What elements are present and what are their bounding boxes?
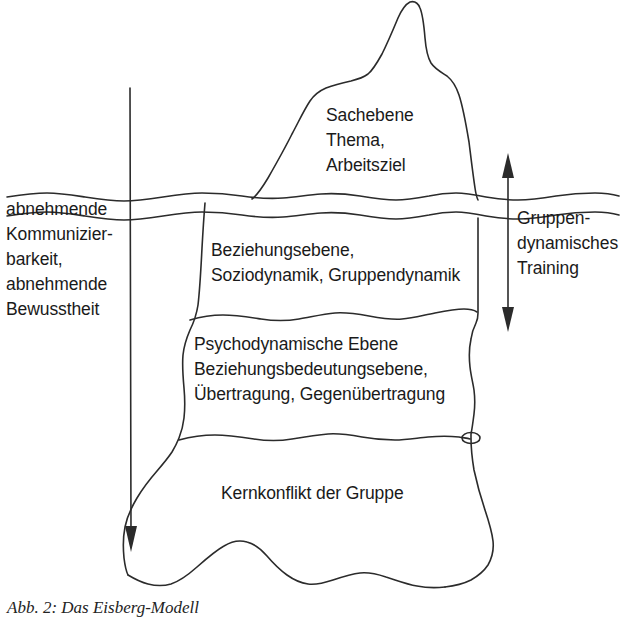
right-axis-arrowhead-down <box>502 307 514 332</box>
layer-divider-lower <box>179 434 470 441</box>
iceberg-bottom-contour <box>128 541 445 588</box>
right-axis-label: Gruppen- dynamisches Training <box>517 206 618 281</box>
right-axis-arrowhead-up <box>502 153 514 178</box>
layer-label-sachebene: Sachebene Thema, Arbeitsziel <box>326 103 414 178</box>
eisberg-modell-figure: abnehmende Kommunizier- barkeit, abnehme… <box>0 0 623 618</box>
left-axis-arrowhead <box>125 526 137 552</box>
layer-label-kernkonflikt: Kernkonflikt der Gruppe <box>221 481 404 506</box>
layer-divider-upper <box>190 309 477 321</box>
figure-caption: Abb. 2: Das Eisberg-Modell <box>7 598 199 618</box>
layer-label-psychodynamische-ebene: Psychodynamische Ebene Beziehungsbedeutu… <box>194 332 445 407</box>
left-axis-label: abnehmende Kommunizier- barkeit, abnehme… <box>6 197 156 322</box>
layer-label-beziehungsebene: Beziehungsebene, Soziodynamik, Gruppendy… <box>211 238 460 288</box>
